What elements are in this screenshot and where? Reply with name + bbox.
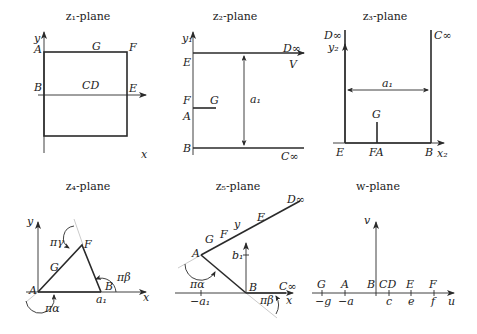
point-label-A: A (182, 110, 191, 123)
point-label-F: F (219, 228, 228, 241)
panel-z2-plane: z₂-plane y₁ E D∞ V F G A B C∞ a₁ (181, 10, 304, 163)
point-label-FA: FA (368, 146, 384, 159)
point-label-E: E (128, 82, 137, 95)
panel-z1-plane: z₁-plane y x A G F B CD E (33, 10, 148, 161)
flow-label-V: V (289, 58, 298, 71)
dimension-label-a1: a₁ (382, 77, 393, 90)
point-label-E: E (182, 56, 191, 69)
axis-label-y2: y₂ (327, 41, 339, 54)
point-label-B: B (104, 280, 113, 293)
tick-label-neg-a: −a (338, 295, 354, 308)
extension-line (74, 219, 83, 245)
point-label-B: B (424, 146, 433, 159)
point-label-G: G (50, 261, 59, 274)
point-label-G: G (372, 108, 381, 121)
point-label-G: G (317, 278, 326, 291)
point-label-B: B (248, 281, 257, 294)
point-label-CD: CD (379, 278, 396, 291)
point-label-F: F (83, 238, 92, 251)
axis-label-x: x (141, 148, 148, 161)
point-label-D-infinity: D∞ (282, 42, 301, 55)
point-label-CD: CD (82, 79, 99, 92)
conformal-mapping-figure: z₁-plane y x A G F B CD E z₂-plane y₁ E … (0, 0, 477, 334)
axis-label-y1: y₁ (181, 32, 193, 45)
point-label-A: A (28, 284, 37, 297)
angle-arc-pi-beta (276, 296, 278, 314)
point-label-A: A (340, 278, 349, 291)
angle-label-pi-alpha: πα (189, 278, 205, 291)
point-label-E: E (335, 146, 344, 159)
panel-title: z₅-plane (216, 180, 261, 193)
rectangle-boundary (44, 52, 127, 136)
point-label-G: G (92, 40, 101, 53)
dimension-label-a1: a₁ (250, 93, 261, 106)
angle-label-pi-alpha: πα (44, 302, 60, 315)
point-label-C-infinity: C∞ (281, 150, 299, 163)
axis-label-v: v (364, 214, 371, 227)
tick-label-b1: b₁ (232, 249, 243, 262)
axis-label-x: x (286, 294, 293, 307)
point-label-B: B (366, 278, 375, 291)
axis-label-y: y (233, 218, 241, 231)
tick-label-neg-a1: −a₁ (190, 295, 210, 308)
tick-label-neg-g: −g (315, 295, 331, 308)
point-label-C-infinity: C∞ (279, 280, 297, 293)
angle-arc-pi-gamma (63, 226, 74, 248)
angle-label-pi-beta: πβ (116, 271, 131, 284)
point-label-B: B (182, 142, 191, 155)
angle-label-pi-beta: πβ (259, 294, 274, 307)
point-label-G: G (210, 94, 219, 107)
panel-w-plane: w-plane v u G A B CD E F −g −a c e f (312, 180, 455, 308)
point-label-F: F (428, 278, 437, 291)
axis-label-x2: x₂ (437, 147, 448, 160)
point-label-F: F (182, 94, 191, 107)
point-label-B: B (33, 81, 42, 94)
angle-label-pi-gamma: πγ (49, 236, 64, 249)
axis-label-u: u (448, 295, 455, 308)
point-label-A: A (33, 43, 42, 56)
panel-title: z₃-plane (363, 10, 408, 23)
point-label-F: F (128, 41, 137, 54)
axis-label-y: y (26, 215, 34, 228)
tick-label-a1: a₁ (96, 293, 107, 306)
panel-title: w-plane (356, 180, 400, 193)
tick-label-c: c (386, 295, 392, 308)
point-label-C-infinity: C∞ (434, 29, 452, 42)
panel-title: z₂-plane (213, 10, 258, 23)
point-label-G: G (205, 233, 214, 246)
point-label-E: E (256, 211, 265, 224)
panel-title: z₁-plane (66, 10, 111, 23)
point-label-A: A (191, 247, 200, 260)
panel-z5-plane: z₅-plane D∞ E y F G A b₁ B C∞ πα −a₁ πβ … (175, 180, 305, 318)
panel-z4-plane: z₄-plane y x A G F B a₁ πγ πβ πα (26, 180, 150, 315)
triangle-boundary (38, 245, 101, 292)
point-label-D-infinity: D∞ (286, 193, 305, 206)
tick-label-e: e (408, 295, 415, 308)
axis-label-x: x (143, 291, 150, 304)
panel-title: z₄-plane (66, 180, 111, 193)
point-label-E: E (405, 278, 414, 291)
tick-label-f: f (430, 295, 437, 308)
panel-z3-plane: z₃-plane D∞ y₂ C∞ a₁ G E FA B x₂ (323, 10, 452, 160)
boundary-AD (201, 201, 300, 255)
